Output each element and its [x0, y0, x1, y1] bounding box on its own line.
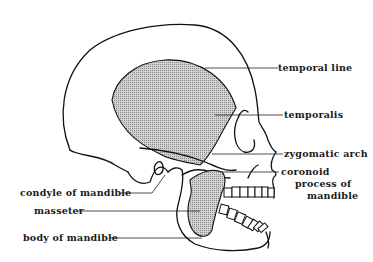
orbit-outline — [235, 110, 255, 152]
label-masseter: masseter — [34, 205, 84, 216]
label-body-of-mandible: body of mandible — [23, 232, 118, 243]
occipital-outline — [70, 150, 128, 172]
label-coronoid-line3: mandible — [307, 190, 358, 201]
skull-illustration — [0, 0, 373, 262]
label-condyle-of-mandible: condyle of mandible — [20, 187, 131, 198]
chin-outline — [266, 232, 269, 248]
temporalis-muscle — [112, 60, 236, 165]
label-coronoid-line1: coronoid — [281, 166, 330, 177]
skull-diagram: temporal line temporalis zygomatic arch … — [0, 0, 373, 262]
lower-teeth — [219, 204, 268, 232]
upper-teeth — [224, 187, 274, 197]
label-temporalis: temporalis — [284, 109, 343, 120]
label-zygomatic-arch: zygomatic arch — [284, 148, 368, 159]
label-coronoid-line2: process of — [295, 178, 351, 189]
label-temporal-line: temporal line — [278, 62, 352, 73]
mastoid-outline — [128, 167, 168, 183]
masseter-muscle — [188, 170, 225, 236]
cheek-mark — [248, 165, 258, 178]
